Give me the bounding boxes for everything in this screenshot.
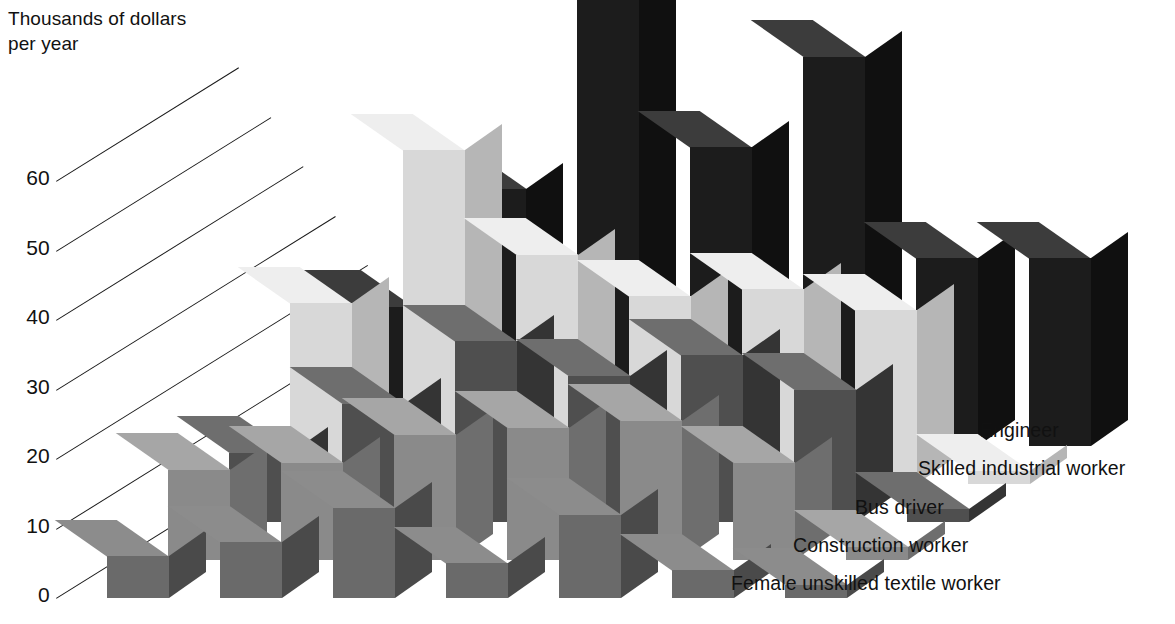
legend-label-4: Female unskilled textile worker [731, 572, 1001, 595]
bar-side-face [1091, 233, 1128, 446]
bar-front-face [446, 563, 508, 598]
legend-key-engineer [1029, 258, 1091, 446]
bar-front-face [733, 463, 795, 560]
bar-front-face [107, 556, 169, 598]
bar-textile-col4 [446, 563, 508, 598]
y-axis-tick-0: 0 [4, 583, 50, 607]
y-axis-tick-40: 40 [4, 305, 50, 329]
gridline-40 [56, 166, 304, 321]
bar-textile-col3 [333, 508, 395, 598]
y-axis-tick-30: 30 [4, 375, 50, 399]
bar-textile-col2 [220, 542, 282, 598]
chart-canvas: Thousands of dollars per year 6050403020… [0, 0, 1175, 624]
bar-front-face [220, 542, 282, 598]
bar-top-face [751, 20, 865, 57]
y-axis-tick-60: 60 [4, 166, 50, 190]
bar-textile-col6 [672, 570, 734, 598]
legend-label-2: Bus driver [855, 496, 944, 519]
bar-side-face [978, 233, 1015, 446]
bar-side-face [969, 483, 1006, 522]
bar-front-face [333, 508, 395, 598]
bar-front-face [559, 515, 621, 598]
bar-side-face [682, 395, 719, 560]
bar-construction-col6 [733, 463, 795, 560]
bar-top-face [351, 114, 465, 151]
y-axis-tick-10: 10 [4, 514, 50, 538]
bar-textile-col1 [107, 556, 169, 598]
bar-textile-col5 [559, 515, 621, 598]
y-axis-title: Thousands of dollars per year [8, 6, 186, 56]
gridline-60 [56, 67, 239, 182]
y-axis-tick-50: 50 [4, 236, 50, 260]
legend-label-1: Skilled industrial worker [918, 457, 1125, 480]
legend-label-3: Construction worker [793, 534, 968, 557]
gridline-50 [56, 117, 271, 252]
y-axis-tick-20: 20 [4, 444, 50, 468]
bar-front-face [672, 570, 734, 598]
legend-label-0: Engineer [980, 419, 1059, 442]
bar-front-face [1029, 258, 1091, 446]
